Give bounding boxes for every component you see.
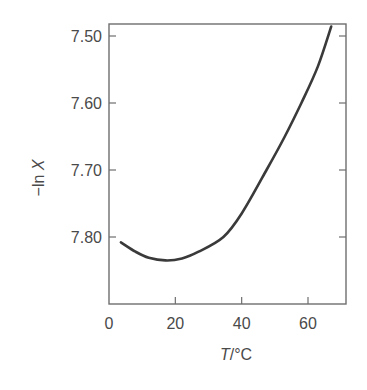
y-axis-label: −ln X [30, 158, 47, 196]
x-tick-label: 60 [299, 315, 317, 332]
x-axis-label-unit: /°C [230, 346, 252, 363]
y-tick-label: 7.80 [71, 229, 102, 246]
plot-border [109, 24, 346, 304]
x-tick-label: 40 [233, 315, 251, 332]
y-axis-ticks: 7.507.607.707.80 [71, 28, 346, 246]
data-curve [121, 27, 331, 261]
y-tick-label: 7.50 [71, 28, 102, 45]
y-axis-label-variable: X [30, 158, 47, 171]
y-tick-label: 7.60 [71, 95, 102, 112]
plot-frame [109, 24, 346, 304]
x-tick-label: 20 [166, 315, 184, 332]
x-axis-ticks: 0204060 [105, 297, 317, 332]
y-axis-label-prefix: −ln [30, 170, 47, 196]
y-tick-label: 7.70 [71, 162, 102, 179]
x-tick-label: 0 [105, 315, 114, 332]
chart: 7.507.607.707.80 0204060 −ln X T/°C [0, 0, 367, 390]
x-axis-label: T/°C [220, 346, 252, 363]
